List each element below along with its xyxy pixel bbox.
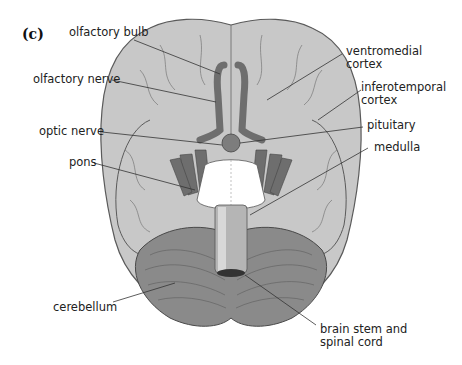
label-medulla: medulla bbox=[374, 141, 420, 154]
spinal-cord bbox=[217, 269, 245, 277]
label-olfactory-bulb: olfactory bulb bbox=[69, 26, 148, 39]
label-olfactory-nerve: olfactory nerve bbox=[33, 73, 120, 86]
panel-label: (c) bbox=[22, 26, 44, 42]
label-pons: pons bbox=[69, 156, 97, 169]
label-optic-nerve: optic nerve bbox=[39, 125, 104, 138]
pituitary bbox=[222, 134, 240, 152]
label-brain-stem-spinal-cord: brain stem and spinal cord bbox=[320, 323, 407, 349]
label-inferotemporal-cortex: inferotemporal cortex bbox=[361, 81, 446, 107]
label-cerebellum: cerebellum bbox=[53, 301, 117, 314]
label-ventromedial-cortex: ventromedial cortex bbox=[346, 45, 422, 71]
label-pituitary: pituitary bbox=[367, 119, 416, 132]
